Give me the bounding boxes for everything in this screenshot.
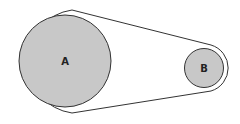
- pulley-b-label: B: [200, 63, 208, 74]
- pulley-a-label: A: [61, 56, 69, 67]
- belt-pulley-diagram: A B: [0, 0, 240, 124]
